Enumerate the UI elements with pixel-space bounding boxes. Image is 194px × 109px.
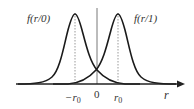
tick-pos-r0: r0 (114, 91, 122, 105)
label-f-r-1: f(r/1) (134, 12, 158, 25)
tick-neg-r0: −r0 (65, 91, 81, 105)
axis-arrow-icon (177, 81, 185, 88)
curve-f-r-1 (53, 14, 176, 84)
curve-f-r-0 (18, 14, 140, 84)
tick-zero: 0 (94, 88, 100, 100)
x-axis-label: r (164, 88, 169, 102)
label-f-r-0: f(r/0) (27, 12, 51, 25)
gaussian-density-diagram: f(r/0) f(r/1) −r0 0 r0 r (0, 0, 194, 109)
